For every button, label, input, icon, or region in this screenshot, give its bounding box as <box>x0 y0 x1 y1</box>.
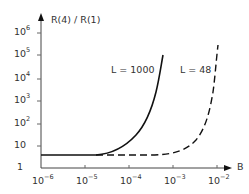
x-tick-1e-6: 10−6 <box>32 175 54 186</box>
chart-canvas <box>0 0 249 194</box>
x-axis-label: B <box>237 161 244 172</box>
y-tick-1e5: 105 <box>14 48 30 59</box>
y-tick-10: 10 <box>14 139 26 150</box>
x-axis-arrow-icon <box>224 165 232 171</box>
y-tick-1: 1 <box>17 161 23 172</box>
y-ticks <box>37 33 41 146</box>
x-tick-1e-5: 10−5 <box>76 175 98 186</box>
series-l48-line <box>96 45 218 155</box>
x-tick-1e-3: 10−3 <box>164 175 186 186</box>
x-tick-1e-2: 10−2 <box>208 175 230 186</box>
y-tick-1e4: 104 <box>14 72 30 83</box>
x-tick-1e-4: 10−4 <box>120 175 142 186</box>
y-tick-1e2: 102 <box>14 117 30 128</box>
y-axis-label: R(4) / R(1) <box>51 14 100 25</box>
y-axis-arrow-icon <box>38 13 44 21</box>
y-tick-1e3: 103 <box>14 94 30 105</box>
annotation-l48: L = 48 <box>180 64 211 75</box>
y-tick-1e6: 106 <box>14 26 30 37</box>
annotation-l1000: L = 1000 <box>111 64 154 75</box>
